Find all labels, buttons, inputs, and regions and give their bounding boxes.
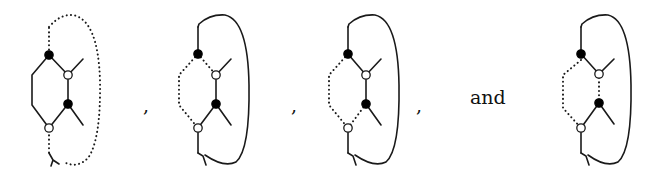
filled-node	[45, 51, 53, 59]
left-hexagon-path-dotted	[563, 60, 581, 128]
separator-comma-3: ,	[416, 94, 422, 116]
outer-loop	[581, 15, 631, 164]
open-node	[212, 71, 220, 79]
diagram-4	[563, 15, 631, 165]
left-hexagon-path-dotted	[179, 54, 198, 128]
filled-node	[212, 100, 220, 108]
open-node	[595, 70, 603, 78]
outer-loop	[198, 15, 249, 164]
left-hexagon-path-dotted	[329, 54, 348, 128]
filled-node	[194, 50, 202, 58]
filled-node	[362, 100, 370, 108]
separator-and: and	[470, 86, 506, 108]
open-node	[577, 124, 585, 132]
diagram-3	[329, 15, 399, 165]
outer-loop	[348, 15, 399, 164]
left-hexagon-path	[32, 55, 49, 128]
open-node	[362, 71, 370, 79]
claw-tail	[49, 153, 59, 166]
open-node	[194, 124, 202, 132]
filled-node	[344, 50, 352, 58]
open-node	[344, 124, 352, 132]
filled-node	[595, 99, 603, 107]
outer-loop-dotted	[49, 15, 100, 165]
figure-canvas: , , , and	[0, 0, 659, 182]
diagram-2	[179, 15, 249, 165]
separator-comma-2: ,	[291, 94, 297, 116]
open-node	[45, 124, 53, 132]
filled-node	[64, 100, 72, 108]
separator-comma-1: ,	[143, 94, 149, 116]
open-node	[64, 71, 72, 79]
diagram-1	[32, 15, 100, 166]
filled-node	[577, 50, 585, 58]
